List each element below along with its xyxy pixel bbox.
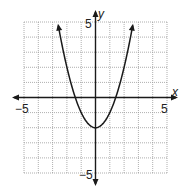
x-axis-left-arrow-icon <box>12 95 19 101</box>
axes <box>12 10 178 186</box>
y-axis-label: y <box>97 7 105 21</box>
x-max-tick-label: 5 <box>161 102 168 116</box>
y-min-tick-label: −5 <box>79 168 93 182</box>
coordinate-plane: −5 5 5 −5 x y <box>0 0 190 193</box>
curve-left-arrow-icon <box>56 24 62 31</box>
x-axis-label: x <box>171 85 179 99</box>
y-max-tick-label: 5 <box>85 17 92 31</box>
x-min-tick-label: −5 <box>15 102 29 116</box>
curve-right-arrow-icon <box>129 24 135 31</box>
y-axis-bottom-arrow-icon <box>93 179 99 186</box>
